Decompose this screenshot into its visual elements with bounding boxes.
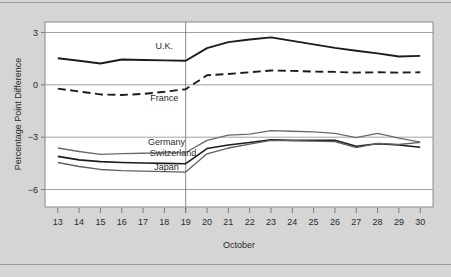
x-tick-label-17: 17 (138, 217, 148, 227)
x-axis-ticks-group (58, 208, 420, 213)
x-tick-label-15: 15 (95, 217, 105, 227)
y-axis-title: Percentage Point Difference (13, 58, 23, 170)
x-tick-label-27: 27 (351, 217, 361, 227)
series-annotation-france: France (150, 93, 178, 103)
series-annotation-japan: Japan (154, 162, 179, 172)
y-axis-ticks-group (41, 32, 45, 189)
y-tick-label-0: 0 (33, 80, 38, 90)
y-tick-label-3: 3 (33, 28, 38, 38)
x-tick-label-22: 22 (245, 217, 255, 227)
x-tick-label-25: 25 (309, 217, 319, 227)
plot-area-background (45, 22, 433, 207)
x-tick-label-13: 13 (53, 217, 63, 227)
series-annotation-u-k: U.K. (156, 41, 174, 51)
x-tick-label-29: 29 (394, 217, 404, 227)
y-tick-label--6: −6 (28, 185, 38, 195)
y-tick-label--3: −3 (28, 132, 38, 142)
x-tick-label-24: 24 (287, 217, 297, 227)
x-tick-label-23: 23 (266, 217, 276, 227)
x-tick-label-28: 28 (373, 217, 383, 227)
figure-container: 30−3−6 131415161718192021222324252627282… (0, 0, 451, 277)
x-tick-label-14: 14 (74, 217, 84, 227)
x-tick-label-19: 19 (181, 217, 191, 227)
x-tick-label-20: 20 (202, 217, 212, 227)
x-tick-label-16: 16 (117, 217, 127, 227)
series-annotation-switzerland: Switzerland (150, 148, 197, 158)
line-chart: 30−3−6 131415161718192021222324252627282… (0, 0, 451, 277)
x-tick-label-21: 21 (223, 217, 233, 227)
x-tick-label-30: 30 (415, 217, 425, 227)
x-axis-title: October (223, 240, 255, 250)
x-axis-tick-labels-group: 131415161718192021222324252627282930 (53, 217, 425, 227)
x-tick-label-26: 26 (330, 217, 340, 227)
series-annotation-germany: Germany (148, 137, 186, 147)
x-tick-label-18: 18 (159, 217, 169, 227)
y-axis-tick-labels-group: 30−3−6 (28, 28, 38, 195)
